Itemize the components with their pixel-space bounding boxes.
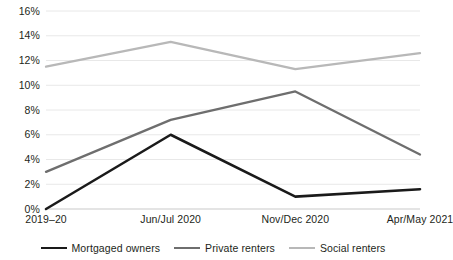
series-line-social-renters bbox=[46, 42, 420, 69]
y-axis-tick-label: 8% bbox=[2, 105, 40, 116]
x-axis-tick-label: Jun/Jul 2020 bbox=[140, 213, 201, 225]
legend-label: Private renters bbox=[205, 242, 275, 254]
y-axis-tick-label: 2% bbox=[2, 179, 40, 190]
y-axis-labels: 0%2%4%6%8%10%12%14%16% bbox=[0, 0, 40, 216]
y-axis-tick-label: 10% bbox=[2, 80, 40, 91]
chart-legend: Mortgaged ownersPrivate rentersSocial re… bbox=[0, 236, 426, 260]
legend-label: Mortgaged owners bbox=[72, 242, 161, 254]
legend-swatch-icon bbox=[289, 247, 315, 249]
legend-item-private-renters[interactable]: Private renters bbox=[174, 242, 275, 254]
gridlines bbox=[46, 11, 420, 209]
y-axis-tick-label: 6% bbox=[2, 129, 40, 140]
series-line-mortgaged-owners bbox=[46, 135, 420, 209]
y-axis-tick-label: 12% bbox=[2, 55, 40, 66]
y-axis-tick-label: 14% bbox=[2, 30, 40, 41]
chart-canvas bbox=[0, 0, 426, 216]
legend-label: Social renters bbox=[320, 242, 386, 254]
x-axis-labels: 2019–20Jun/Jul 2020Nov/Dec 2020Apr/May 2… bbox=[46, 213, 426, 233]
x-axis-tick-label: Apr/May 2021 bbox=[387, 213, 453, 225]
x-axis-tick-label: Nov/Dec 2020 bbox=[261, 213, 329, 225]
legend-item-social-renters[interactable]: Social renters bbox=[289, 242, 386, 254]
y-axis-tick-label: 4% bbox=[2, 154, 40, 165]
plot-area bbox=[0, 0, 426, 216]
legend-swatch-icon bbox=[41, 247, 67, 249]
legend-item-mortgaged-owners[interactable]: Mortgaged owners bbox=[41, 242, 161, 254]
y-axis-tick-label: 16% bbox=[2, 6, 40, 17]
x-axis-tick-label: 2019–20 bbox=[25, 213, 67, 225]
legend-swatch-icon bbox=[174, 247, 200, 249]
